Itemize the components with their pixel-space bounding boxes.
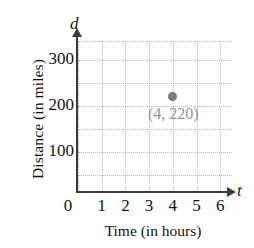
chart-figure: Distance (in miles) (4, 220) d t 300 200… [0, 0, 254, 248]
y-axis-line [76, 36, 78, 192]
gridline-horizontal [78, 60, 232, 61]
x-axis-title: Time (in hours) [68, 222, 238, 240]
gridline-vertical [220, 41, 221, 192]
x-tick-label: 3 [139, 196, 159, 216]
x-tick-label: 1 [92, 196, 112, 216]
x-axis-variable-label: t [237, 181, 242, 201]
gridline-horizontal [78, 152, 232, 153]
x-tick-label: 5 [187, 196, 207, 216]
data-point [168, 92, 177, 101]
y-tick-label: 100 [34, 141, 74, 161]
x-tick-label: 6 [210, 196, 230, 216]
gridline-horizontal [78, 83, 232, 84]
gridline-vertical [125, 41, 126, 192]
x-tick-label: 2 [115, 196, 135, 216]
gridline-horizontal [78, 41, 232, 42]
y-tick-label: 200 [34, 95, 74, 115]
x-axis-line [76, 191, 230, 193]
y-tick-label: 300 [34, 49, 74, 69]
gridline-horizontal [78, 129, 232, 130]
x-tick-label: 4 [163, 196, 183, 216]
gridline-horizontal [78, 175, 232, 176]
gridline-vertical [102, 41, 103, 192]
gridline-vertical [78, 41, 79, 192]
data-point-label: (4, 220) [148, 105, 199, 123]
x-tick-label: 0 [58, 196, 78, 216]
